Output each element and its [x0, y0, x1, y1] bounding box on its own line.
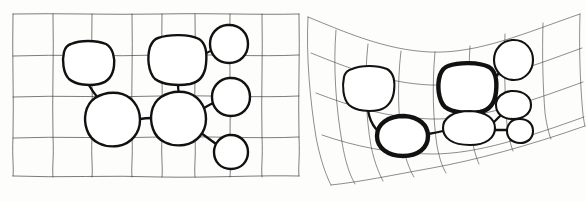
node-L7[interactable]	[214, 135, 248, 169]
node-R1[interactable]	[343, 66, 394, 111]
panel-left-hitbox[interactable]	[4, 4, 304, 197]
panel-right-warped-grid[interactable]	[304, 4, 585, 197]
panel-left-regular-grid[interactable]	[4, 4, 304, 197]
node-R3[interactable]	[494, 40, 533, 80]
node-R4[interactable]	[496, 91, 531, 119]
figure-canvas	[0, 0, 586, 201]
node-L5[interactable]	[85, 93, 140, 147]
node-L3[interactable]	[210, 25, 248, 63]
node-R2[interactable]	[438, 63, 496, 113]
node-L2[interactable]	[148, 35, 206, 85]
node-L6[interactable]	[151, 92, 206, 146]
node-L1[interactable]	[63, 41, 114, 85]
node-R6[interactable]	[443, 111, 495, 145]
figure-root	[0, 0, 586, 201]
grid-hline-0	[13, 14, 299, 15]
node-R7[interactable]	[507, 119, 533, 143]
node-L4[interactable]	[212, 78, 250, 116]
node-R5[interactable]	[377, 116, 428, 156]
